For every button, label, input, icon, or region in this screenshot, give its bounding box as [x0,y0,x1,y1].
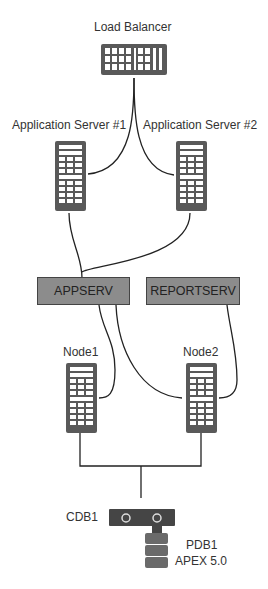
app-server-1-label: Application Server #1 [12,118,126,132]
load-balancer-icon [101,44,167,75]
pdb-version-label: APEX 5.0 [175,554,227,568]
node2-icon [186,363,217,433]
node2-label: Node2 [183,345,218,359]
reportserv-box: REPORTSERV [146,277,240,305]
app-server-2-label: Application Server #2 [143,118,257,132]
cdb-icon [109,509,175,527]
appserv-box: APPSERV [37,277,130,305]
pdb-icon [145,526,168,572]
app-server-1-icon [55,141,86,211]
load-balancer-label: Load Balancer [94,20,171,34]
app-server-2-icon [176,141,207,211]
cdb-label: CDB1 [66,510,98,524]
pdb-label: PDB1 [186,538,217,552]
node1-icon [66,363,97,433]
node1-label: Node1 [63,345,98,359]
